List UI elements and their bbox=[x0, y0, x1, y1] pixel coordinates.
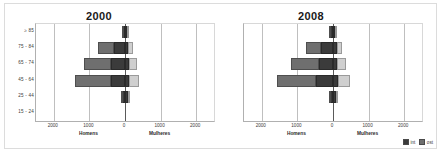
bar-row bbox=[36, 40, 214, 56]
stacked-bar bbox=[36, 91, 214, 103]
bar-segment-homens-int bbox=[111, 58, 125, 70]
bar-segment-mulheres-ost bbox=[129, 58, 137, 70]
stacked-bar bbox=[36, 75, 214, 87]
x-axis-caption-mulheres: Mulheres bbox=[140, 130, 180, 138]
legend-item-int: int bbox=[403, 139, 415, 145]
stacked-bar bbox=[244, 107, 422, 119]
bar-row bbox=[244, 24, 422, 40]
chart-title-2000: 2000 bbox=[19, 10, 179, 22]
bar-row bbox=[244, 40, 422, 56]
bar-segment-homens-ost bbox=[75, 75, 111, 87]
stacked-bar bbox=[36, 107, 214, 119]
y-axis-label: 75 - 84 bbox=[8, 43, 34, 51]
bar-segment-homens-ost bbox=[84, 58, 111, 70]
bar-segment-mulheres-ost bbox=[128, 42, 133, 54]
bar-segment-homens-ost bbox=[329, 91, 331, 103]
x-axis-tick-label: 1000 bbox=[145, 122, 175, 130]
legend-swatch-ost bbox=[419, 139, 425, 145]
bar-segment-mulheres-ost bbox=[335, 26, 337, 38]
bar-segment-mulheres-ost bbox=[337, 42, 342, 54]
figure-frame: 2000 ≥ 8575 - 8465 - 7445 - 6425 - 4415 … bbox=[4, 3, 437, 149]
legend-label-ost: ost bbox=[427, 140, 433, 145]
bar-segment-homens-ost bbox=[98, 42, 114, 54]
bar-segment-homens-int bbox=[316, 75, 333, 87]
chart-2008: 2008 20001000010002000HomensMulheres bbox=[221, 4, 437, 150]
x-axis-caption-homens: Homens bbox=[68, 130, 108, 138]
bar-segment-homens-ost bbox=[329, 26, 331, 38]
stacked-bar bbox=[244, 91, 422, 103]
bar-segment-mulheres-ost bbox=[338, 75, 350, 87]
bar-segment-mulheres-ost bbox=[128, 91, 130, 103]
bar-segment-homens-ost bbox=[122, 26, 124, 38]
y-axis-label: 45 - 64 bbox=[8, 76, 34, 84]
bar-row bbox=[244, 73, 422, 89]
stacked-bar bbox=[36, 26, 214, 38]
bar-row bbox=[244, 89, 422, 105]
legend-swatch-int bbox=[403, 139, 409, 145]
y-axis-label: 25 - 44 bbox=[8, 92, 34, 100]
bar-segment-homens-int bbox=[321, 42, 333, 54]
bar-row bbox=[36, 56, 214, 72]
bar-segment-homens-ost bbox=[121, 91, 123, 103]
stacked-bar bbox=[244, 58, 422, 70]
bar-segment-homens-int bbox=[114, 42, 125, 54]
bar-row bbox=[36, 89, 214, 105]
x-axis-tick-label: 0 bbox=[109, 122, 139, 130]
stacked-bar bbox=[36, 42, 214, 54]
legend-label-int: int bbox=[411, 140, 416, 145]
stacked-bar bbox=[244, 42, 422, 54]
bar-row bbox=[244, 105, 422, 121]
bar-segment-homens-ost bbox=[291, 58, 319, 70]
bar-row bbox=[36, 105, 214, 121]
bar-segment-homens-ost bbox=[306, 42, 321, 54]
bar-segment-mulheres-ost bbox=[337, 58, 346, 70]
legend: int ost bbox=[403, 139, 433, 145]
bar-row bbox=[244, 56, 422, 72]
stacked-bar bbox=[244, 75, 422, 87]
bar-segment-homens-int bbox=[319, 58, 333, 70]
bar-row bbox=[36, 24, 214, 40]
bar-segment-mulheres-ost bbox=[336, 91, 338, 103]
bar-segment-mulheres-ost bbox=[129, 75, 139, 87]
chart-2000: 2000 ≥ 8575 - 8465 - 7445 - 6425 - 4415 … bbox=[5, 4, 221, 150]
x-axis-tick-label: 2000 bbox=[180, 122, 210, 130]
y-axis-label: 65 - 74 bbox=[8, 59, 34, 67]
x-axis-caption-homens: Homens bbox=[276, 130, 316, 138]
x-axis-tick-label: 2000 bbox=[38, 122, 68, 130]
y-axis-label: ≥ 85 bbox=[8, 27, 34, 35]
bar-row bbox=[36, 73, 214, 89]
x-axis-caption-mulheres: Mulheres bbox=[348, 130, 388, 138]
x-axis-tick-label: 1000 bbox=[353, 122, 383, 130]
x-axis-tick-label: 2000 bbox=[246, 122, 276, 130]
bar-segment-mulheres-ost bbox=[127, 26, 129, 38]
chart-title-2008: 2008 bbox=[231, 10, 391, 22]
x-axis-tick-label: 0 bbox=[317, 122, 347, 130]
legend-item-ost: ost bbox=[419, 139, 433, 145]
stacked-bar bbox=[244, 26, 422, 38]
x-axis-tick-label: 2000 bbox=[388, 122, 418, 130]
bar-segment-homens-ost bbox=[277, 75, 315, 87]
stacked-bar bbox=[36, 58, 214, 70]
x-axis-tick-label: 1000 bbox=[73, 122, 103, 130]
plot-area-2008 bbox=[243, 23, 423, 122]
plot-area-2000 bbox=[35, 23, 215, 122]
y-axis-label: 15 - 24 bbox=[8, 108, 34, 116]
bar-segment-homens-int bbox=[111, 75, 125, 87]
x-axis-tick-label: 1000 bbox=[281, 122, 311, 130]
